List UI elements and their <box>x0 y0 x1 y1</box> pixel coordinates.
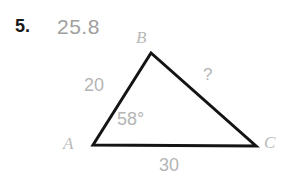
vertex-label-c: C <box>264 134 275 151</box>
angle-label-a: 58° <box>117 110 144 128</box>
side-label-ab: 20 <box>84 76 104 94</box>
side-label-bc-unknown: ? <box>203 66 212 83</box>
vertex-label-b: B <box>136 29 146 46</box>
vertex-label-a: A <box>63 135 73 152</box>
triangle-outline <box>93 53 256 146</box>
worksheet-problem-figure: 5. 25.8 B A C 20 ? 30 58° <box>0 0 289 185</box>
side-label-ac: 30 <box>159 156 179 174</box>
